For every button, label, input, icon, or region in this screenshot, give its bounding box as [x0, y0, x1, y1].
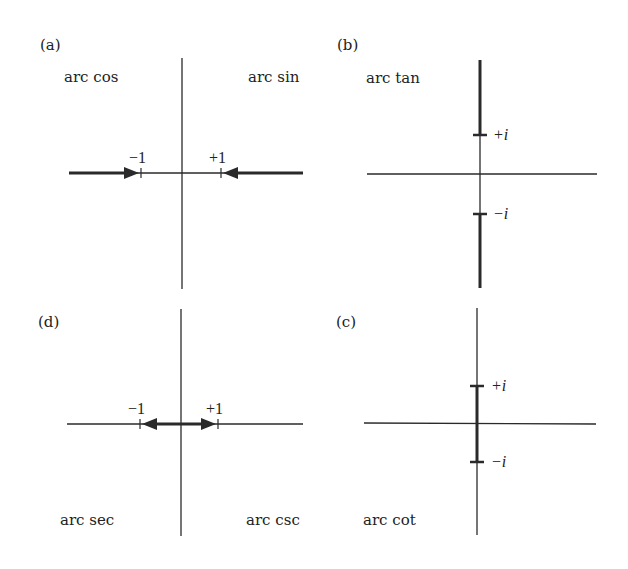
tick-label-minus-i: −i [493, 205, 508, 222]
arccos-label: arc cos [64, 68, 118, 86]
panel-c-label: (c) [336, 313, 356, 331]
arcsin-label: arc sin [248, 68, 300, 86]
panel-d-label: (d) [38, 313, 59, 331]
panel-b-label: (b) [337, 36, 358, 54]
tick-label-plus-i: +i [491, 377, 506, 394]
tick-label-plus-one: +1 [206, 400, 223, 417]
arccot-label: arc cot [363, 511, 416, 529]
arctan-label: arc tan [366, 69, 420, 87]
tick-label-minus-one: −1 [128, 400, 145, 417]
panel-c: (c) arc cot +i −i [336, 308, 596, 535]
arcsec-label: arc sec [60, 511, 114, 529]
arrow-left-icon [223, 167, 238, 179]
panel-d: (d) arc sec arc csc −1 +1 [38, 309, 303, 536]
panel-a: (a) arc cos arc sin −1 +1 [40, 36, 303, 289]
tick-label-minus-one: −1 [129, 149, 146, 166]
tick-label-plus-one: +1 [209, 149, 226, 166]
tick-label-plus-i: +i [493, 126, 508, 143]
arrow-left-icon [142, 418, 157, 430]
branch-cut-diagram: (a) arc cos arc sin −1 +1 (b) arc tan +i… [0, 0, 628, 569]
panel-b: (b) arc tan +i −i [337, 36, 597, 288]
tick-label-minus-i: −i [491, 453, 506, 470]
arccsc-label: arc csc [246, 511, 300, 529]
arrow-right-icon [124, 167, 139, 179]
panel-a-label: (a) [40, 36, 61, 54]
real-axis [364, 423, 596, 424]
arrow-right-icon [201, 418, 216, 430]
